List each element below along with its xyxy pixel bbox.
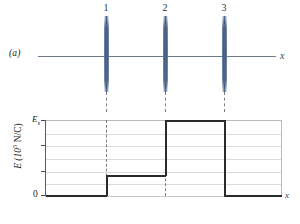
charged-plate-1	[104, 16, 109, 92]
plate-label-3: 3	[222, 2, 227, 13]
y-axis-line	[45, 120, 46, 196]
gridline-3	[46, 159, 281, 160]
connector-line-3	[224, 92, 225, 112]
plate-label-1: 1	[104, 2, 109, 13]
gridline-4	[46, 146, 281, 147]
trace-riser-1	[106, 176, 108, 196]
y-axis-title-prefix: E (10	[13, 148, 23, 169]
y-tick-label-es-sub: s	[38, 119, 41, 126]
plate-label-2: 2	[163, 2, 168, 13]
trace-segment-1	[46, 195, 107, 197]
panel-a-axis-label: x	[280, 50, 284, 61]
charged-plate-3	[222, 16, 227, 92]
y-tick-label-es: Es	[32, 114, 40, 126]
y-axis-title-exponent: 5	[11, 145, 18, 148]
y-tick-mid-lower	[41, 171, 45, 172]
y-tick-mid-upper	[41, 145, 45, 146]
connector-line-2	[165, 92, 166, 112]
charged-plate-2	[163, 16, 168, 92]
y-tick-label-zero: 0	[33, 189, 38, 199]
trace-riser-2	[165, 120, 167, 176]
trace-segment-4	[224, 195, 282, 197]
trace-riser-3	[224, 120, 226, 196]
y-axis-title-suffix: N/C)	[13, 123, 23, 144]
panel-a-axis-line	[38, 56, 276, 57]
panel-a: (a) x 1 2 3	[0, 0, 300, 112]
trace-segment-3	[165, 120, 225, 122]
panel-b-axis-label: x	[285, 190, 289, 200]
figure-root: (a) x 1 2 3 x 0	[0, 0, 300, 224]
trace-segment-2	[106, 175, 166, 177]
panel-b: x 0 Es E (105 N/C) (b)	[0, 112, 300, 224]
gridline-1	[46, 184, 281, 185]
y-tick-top	[41, 120, 45, 121]
gridline-2	[46, 172, 281, 173]
y-axis-title: E (105 N/C)	[11, 108, 23, 184]
plot-frame	[45, 120, 282, 196]
connector-line-1	[106, 92, 107, 112]
gridline-5	[46, 134, 281, 135]
panel-a-tag: (a)	[9, 48, 21, 58]
